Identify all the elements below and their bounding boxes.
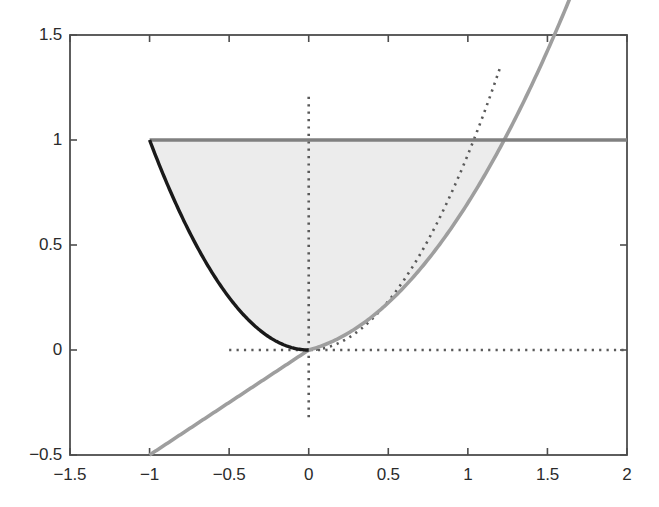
x-tick-label: −1 [140,465,159,485]
x-tick-label: 0.5 [377,465,400,485]
y-tick-label: 0 [0,340,62,360]
y-tick-label: 1.5 [0,25,62,45]
x-tick-label: 0 [304,465,313,485]
shaded-region [150,140,505,350]
x-tick-label: 2 [622,465,631,485]
x-tick-label: 1 [463,465,472,485]
y-tick-label: −0.5 [0,445,62,465]
x-tick-label: −0.5 [213,465,246,485]
x-tick-label: 1.5 [536,465,559,485]
x-tick-label: −1.5 [54,465,87,485]
y-tick-label: 0.5 [0,235,62,255]
figure-container: −1.5−1−0.500.511.52 −0.500.511.5 [0,0,659,507]
chart-canvas [0,0,659,507]
y-tick-label: 1 [0,130,62,150]
